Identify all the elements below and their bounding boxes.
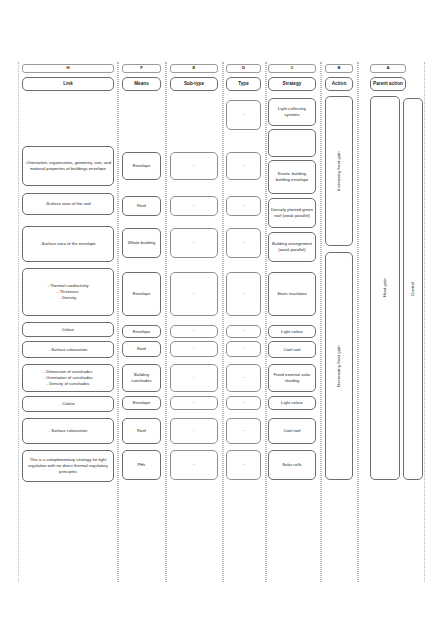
strategy-box [268, 129, 316, 157]
means-box: Roof [122, 196, 161, 216]
column-guide [223, 62, 224, 582]
column-guide [118, 62, 119, 582]
link-box: - Surface colouration [22, 341, 114, 358]
column-header-action: Action [325, 77, 353, 91]
column-header-strategy: Strategy [268, 77, 316, 91]
parent-action-box: Heat gain [370, 96, 400, 480]
strategy-box: Kinetic building building envelope [268, 160, 316, 194]
link-box: -Colour [22, 396, 114, 412]
subtype-box: - [170, 152, 218, 180]
strategy-box: Static insulation [268, 272, 316, 316]
type-box: - [226, 396, 261, 410]
column-code-H: H [22, 64, 114, 73]
link-box: Colour [22, 322, 114, 337]
column-guide [424, 62, 425, 582]
column-code-C: C [268, 64, 316, 73]
column-guide [266, 62, 267, 582]
means-box: PHs [122, 450, 161, 480]
means-box: Envelope [122, 152, 161, 180]
type-box: - [226, 450, 261, 480]
subtype-box: - [170, 450, 218, 480]
link-box: -Orientation, organisation, geometry, si… [22, 146, 114, 186]
subtype-box: - [170, 228, 218, 258]
column-guide [166, 62, 167, 582]
column-header-means: Means [122, 77, 161, 91]
subtype-box: - [170, 396, 218, 410]
type-box: - [226, 100, 261, 130]
strategy-box: Fixed external solar shading [268, 364, 316, 392]
means-box: Roof [122, 418, 161, 444]
strategy-box: Light colour [268, 396, 316, 410]
column-header-link: Link [22, 77, 114, 91]
column-guide [321, 62, 322, 582]
type-box: - [226, 152, 261, 180]
link-box: - Surface colouration [22, 418, 114, 444]
strategy-box: Cool roof [268, 341, 316, 358]
type-box: - [226, 364, 261, 392]
column-code-D: D [226, 64, 261, 73]
strategy-box: Densely planted green roof (weak paralle… [268, 198, 316, 228]
column-header-sub-type: Sub-type [170, 77, 218, 91]
link-box: - Thermal conductivity- Thickness- Densi… [22, 268, 114, 316]
parent-action-box: Control [403, 98, 423, 480]
column-code-F: F [122, 64, 161, 73]
action-box: Decreasing heat gain [325, 252, 353, 480]
subtype-box: - [170, 364, 218, 392]
subtype-box: - [170, 341, 218, 357]
type-box: - [226, 325, 261, 338]
column-header-type: Type [226, 77, 261, 91]
means-box: Envelope [122, 272, 161, 316]
link-box: -Surface area of the roof [22, 193, 114, 215]
type-box: - [226, 341, 261, 357]
strategy-box: Light collecting systems [268, 98, 316, 126]
means-box: Envelope [122, 325, 161, 338]
action-box: Increasing heat gain [325, 96, 353, 246]
type-box: - [226, 272, 261, 316]
subtype-box: - [170, 272, 218, 316]
column-code-B: B [325, 64, 353, 73]
strategy-box: Solar cells [268, 450, 316, 480]
diagram-canvas: HLinkFMeansESub-typeDTypeCStrategyBActio… [0, 0, 432, 641]
type-box: - [226, 418, 261, 444]
strategy-box: Cool roof [268, 418, 316, 444]
strategy-box: Light colour [268, 325, 316, 338]
type-box: - [226, 228, 261, 258]
subtype-box: - [170, 418, 218, 444]
link-box: -Surface area of the envelope [22, 226, 114, 262]
subtype-box: - [170, 196, 218, 216]
link-box: - Dimension of sunshades- Orientation of… [22, 364, 114, 392]
strategy-box: Building arrangement (weak parallel) [268, 232, 316, 262]
means-box: Roof [122, 341, 161, 357]
column-code-A: A [370, 64, 406, 73]
means-box: Envelope [122, 396, 161, 410]
subtype-box: - [170, 325, 218, 338]
link-box: This is a complementary strategy for lig… [22, 450, 114, 482]
column-header-parent-action: Parent action [370, 77, 406, 91]
means-box: Whole building [122, 228, 161, 258]
column-guide [18, 62, 19, 582]
type-box: - [226, 196, 261, 216]
means-box: Building sunshades [122, 364, 161, 392]
column-code-E: E [170, 64, 218, 73]
column-guide [358, 62, 359, 582]
